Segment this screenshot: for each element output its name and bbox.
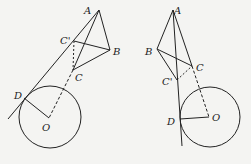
left-segment-ab [99, 10, 110, 50]
left-segment-c-prime-c-dashed [73, 41, 74, 70]
right-circle-o [180, 87, 240, 147]
left-segment-bc-prime [74, 41, 110, 50]
left-label-d: D [13, 90, 22, 101]
left-segment-co-dashed [49, 70, 73, 118]
right-label-c-prime: C' [162, 76, 172, 87]
left-labels: A B C' C D O [13, 5, 120, 133]
left-label-a: A [83, 5, 91, 16]
right-segment-ab [157, 10, 173, 49]
right-label-a: A [173, 5, 181, 16]
right-label-c: C [196, 62, 204, 73]
right-label-b: B [144, 46, 152, 57]
right-label-d: D [166, 116, 175, 127]
left-label-o: O [42, 122, 50, 133]
left-figure [8, 10, 110, 148]
left-label-c: C [75, 72, 83, 83]
geometry-diagram: A B C' C D O A B C C' D O [0, 0, 251, 164]
right-segment-c-prime-c-dashed [177, 66, 192, 80]
right-segment-do [180, 117, 209, 119]
left-segment-ac [73, 10, 99, 70]
left-tangent-line-ad [8, 10, 99, 119]
left-label-c-prime: C' [60, 35, 70, 46]
right-label-o: O [212, 112, 220, 123]
left-segment-bc [73, 50, 110, 70]
left-label-b: B [112, 46, 120, 57]
left-segment-do [24, 98, 49, 118]
right-labels: A B C C' D O [144, 5, 220, 127]
